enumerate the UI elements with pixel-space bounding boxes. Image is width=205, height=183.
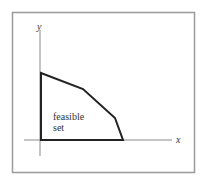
y-axis-label: y — [36, 21, 42, 32]
feasible-set-diagram: y x feasible set — [0, 0, 205, 183]
region-label-feasible: feasible — [53, 111, 85, 122]
x-axis-label: x — [175, 134, 181, 145]
region-label-set: set — [53, 122, 64, 133]
